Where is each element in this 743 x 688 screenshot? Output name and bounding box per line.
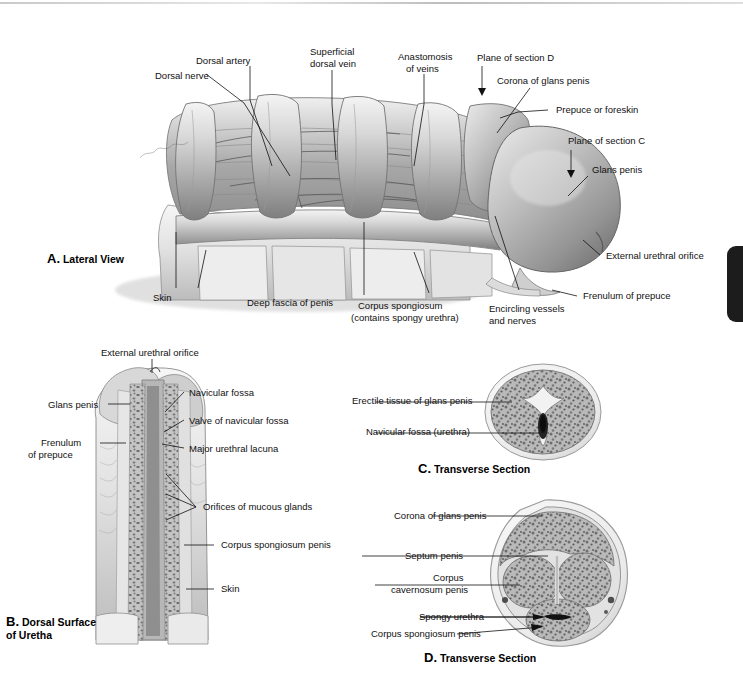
label-anastomosis-line1: Anastomosis	[398, 51, 452, 62]
label-anastomosis-line2: of veins	[406, 63, 439, 74]
panel-c-artwork	[485, 364, 601, 460]
panel-a-name: Lateral View	[63, 253, 124, 265]
label-corona-of-glans-penis-d: Corona of glans penis	[394, 510, 486, 521]
label-navicular-fossa-urethra: Navicular fossa (urethra)	[366, 426, 470, 437]
label-spongy-urethra: Spongy urethra	[419, 611, 484, 622]
label-navicular-fossa-b: Navicular fossa	[189, 387, 254, 398]
label-plane-of-section-c: Plane of section C	[568, 135, 645, 146]
figure-page: Dorsal nerve Dorsal artery Superficial d…	[0, 0, 743, 688]
label-skin-b: Skin	[221, 583, 239, 594]
label-superficial-dorsal-vein-line1: Superficial	[310, 46, 354, 57]
panel-title-a: A. Lateral View	[47, 251, 124, 266]
label-plane-of-section-d: Plane of section D	[477, 52, 554, 63]
panel-b-name: Dorsal Surface of Uretha	[6, 616, 96, 641]
label-frenulum-of-prepuce-a: Frenulum of prepuce	[583, 290, 671, 301]
label-deep-fascia-of-penis: Deep fascia of penis	[247, 297, 333, 308]
label-frenulum-line2: of prepuce	[28, 449, 73, 460]
label-superficial-dorsal-vein-line2: dorsal vein	[310, 58, 356, 69]
label-frenulum-line1: Frenulum	[41, 437, 81, 448]
label-corpus-cavernosum-line1: Corpus	[433, 572, 464, 583]
label-dorsal-artery: Dorsal artery	[196, 55, 250, 66]
panel-d-artwork	[491, 500, 628, 646]
panel-d-name: Transverse Section	[440, 652, 536, 664]
label-orifices-of-mucous-glands: Orifices of mucous glands	[203, 501, 312, 512]
label-valve-of-navicular-fossa: Valve of navicular fossa	[189, 415, 289, 426]
label-glans-penis-b: Glans penis	[48, 399, 98, 410]
label-external-urethral-orifice-b: External urethral orifice	[101, 347, 199, 358]
label-encircling-vessels-line2: and nerves	[489, 315, 536, 326]
label-corpus-spongiosum-line2: (contains spongy urethra)	[351, 312, 459, 323]
panel-a-artwork	[115, 94, 620, 312]
label-dorsal-nerve: Dorsal nerve	[155, 70, 209, 81]
label-corpus-spongiosum-penis-b: Corpus spongiosum penis	[221, 539, 331, 550]
panel-c-name: Transverse Section	[434, 463, 530, 475]
panel-d-letter: D.	[424, 650, 437, 665]
page-edge-tab	[727, 246, 743, 322]
label-external-urethral-orifice-a: External urethral orifice	[606, 250, 704, 261]
label-septum-penis: Septum penis	[405, 550, 463, 561]
label-encircling-vessels-line1: Encircling vessels	[489, 303, 565, 314]
panel-title-d: D. Transverse Section	[424, 650, 536, 665]
label-glans-penis-a: Glans penis	[592, 164, 642, 175]
panel-b-artwork	[95, 368, 208, 645]
panel-a-letter: A.	[47, 251, 60, 266]
label-prepuce-or-foreskin: Prepuce or foreskin	[556, 104, 638, 115]
label-skin-a: Skin	[153, 292, 171, 303]
label-corpus-spongiosum-penis-d: Corpus spongiosum penis	[371, 628, 481, 639]
label-corona-of-glans-penis-a: Corona of glans penis	[497, 75, 589, 86]
panel-b-letter: B.	[6, 614, 19, 629]
panel-c-letter: C.	[418, 461, 431, 476]
label-erectile-tissue-of-glans-penis: Erectile tissue of glans penis	[352, 395, 472, 406]
label-major-urethral-lacuna: Major urethral lacuna	[189, 443, 278, 454]
panel-title-b: B. Dorsal Surface of Uretha	[6, 614, 116, 641]
panel-title-c: C. Transverse Section	[418, 461, 530, 476]
label-corpus-cavernosum-line2: cavernosum penis	[391, 584, 468, 595]
label-corpus-spongiosum-line1: Corpus spongiosum	[358, 300, 443, 311]
